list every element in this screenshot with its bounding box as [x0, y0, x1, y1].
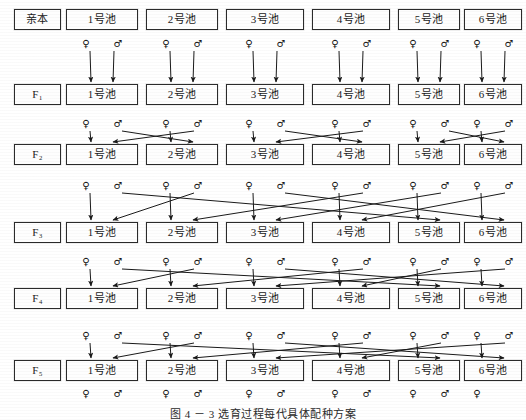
pond-box-f4-5: 5号池 [398, 288, 460, 309]
mating-arrow-female-6-to-6 [481, 193, 482, 220]
generation-label-f5: F₅ [14, 360, 61, 381]
pond-box-f1-4: 4号池 [312, 84, 390, 105]
generation-label-f1: F₁ [14, 84, 61, 105]
mating-arrow-male-1-to-1 [113, 51, 114, 82]
terminal-sex-symbol-9: ♀ [409, 389, 416, 399]
male-symbol-f3-from4: ♂ [363, 181, 372, 191]
mating-arrow-male-1-to-2 [122, 131, 193, 142]
pond-box-f2-1: 1号池 [66, 144, 138, 165]
mating-arrow-female-6-to-6 [481, 269, 482, 286]
female-symbol-f3-from4: ♀ [331, 181, 338, 191]
pond-box-parent-6: 6号池 [464, 9, 522, 30]
male-symbol-f2-from3: ♂ [277, 119, 286, 129]
male-symbol-f3-from6: ♂ [505, 181, 514, 191]
female-symbol-f4-from1: ♀ [82, 257, 89, 267]
figure-canvas: 亲本1号池2号池3号池4号池5号池6号池F₁1号池2号池3号池4号池5号池6号池… [0, 0, 526, 420]
pond-box-f5-1: 1号池 [66, 360, 138, 381]
mating-arrow-male-2-to-1 [113, 131, 194, 142]
mating-arrow-female-1-to-1 [90, 131, 91, 142]
female-symbol-f5-from2: ♀ [162, 331, 169, 341]
pond-box-f3-4: 4号池 [312, 222, 390, 243]
mating-arrow-male-4-to-3 [276, 131, 363, 142]
mating-arrow-female-3-to-3 [253, 51, 254, 82]
mating-arrow-male-6-to-6 [504, 51, 505, 82]
pond-box-f4-4: 4号池 [312, 288, 390, 309]
female-symbol-f4-from3: ♀ [245, 257, 252, 267]
terminal-sex-symbol-6: ♂ [277, 389, 286, 399]
female-symbol-f2-from3: ♀ [245, 119, 252, 129]
mating-arrow-female-2-to-2 [170, 193, 171, 220]
male-symbol-f4-from5: ♂ [441, 257, 450, 267]
mating-arrow-male-6-to-5 [440, 131, 505, 142]
pond-box-f1-2: 2号池 [146, 84, 218, 105]
pond-box-f2-5: 5号池 [398, 144, 460, 165]
pond-box-f4-2: 2号池 [146, 288, 218, 309]
female-symbol-f3-from3: ♀ [245, 181, 252, 191]
mating-arrow-female-3-to-3 [253, 193, 254, 220]
mating-arrow-male-5-to-6 [449, 131, 504, 142]
male-symbol-f1-from2: ♂ [194, 39, 203, 49]
male-symbol-f1-from4: ♂ [363, 39, 372, 49]
male-symbol-f5-from1: ♂ [114, 331, 123, 341]
female-symbol-f1-from6: ♀ [473, 39, 480, 49]
pond-box-f2-6: 6号池 [464, 144, 522, 165]
female-symbol-f1-from2: ♀ [162, 39, 169, 49]
pond-box-f3-6: 6号池 [464, 222, 522, 243]
male-symbol-f5-from5: ♂ [441, 331, 450, 341]
mating-arrow-female-4-to-4 [339, 51, 340, 82]
mating-arrow-male-5-to-4 [362, 269, 441, 286]
pond-box-parent-5: 5号池 [398, 9, 460, 30]
female-symbol-f4-from5: ♀ [409, 257, 416, 267]
female-symbol-f3-from1: ♀ [82, 181, 89, 191]
male-symbol-f1-from6: ♂ [505, 39, 514, 49]
male-symbol-f2-from6: ♂ [505, 119, 514, 129]
mating-arrow-male-3-to-4 [285, 131, 362, 142]
mating-arrow-male-4-to-4 [362, 51, 363, 82]
mating-arrow-female-2-to-2 [170, 131, 171, 142]
pond-box-f2-2: 2号池 [146, 144, 218, 165]
female-symbol-f5-from3: ♀ [245, 331, 252, 341]
male-symbol-f3-from5: ♂ [441, 181, 450, 191]
female-symbol-f2-from4: ♀ [331, 119, 338, 129]
terminal-sex-symbol-2: ♂ [114, 389, 123, 399]
female-symbol-f1-from5: ♀ [409, 39, 416, 49]
mating-arrow-female-1-to-1 [90, 51, 91, 82]
male-symbol-f2-from1: ♂ [114, 119, 123, 129]
generation-label-f2: F₂ [14, 144, 61, 165]
pond-box-f4-6: 6号池 [464, 288, 522, 309]
mating-arrow-male-4-to-2 [193, 193, 363, 220]
female-symbol-f2-from5: ♀ [409, 119, 416, 129]
generation-label-f4: F₄ [14, 288, 61, 309]
mating-arrow-female-3-to-3 [253, 343, 254, 358]
mating-arrow-female-3-to-3 [253, 269, 254, 286]
mating-arrow-female-5-to-5 [417, 51, 418, 82]
mating-arrow-female-5-to-5 [417, 269, 418, 286]
male-symbol-f5-from6: ♂ [505, 331, 514, 341]
female-symbol-f5-from1: ♀ [82, 331, 89, 341]
male-symbol-f4-from2: ♂ [194, 257, 203, 267]
male-symbol-f3-from2: ♂ [194, 181, 203, 191]
pond-box-f3-5: 5号池 [398, 222, 460, 243]
female-symbol-f2-from2: ♀ [162, 119, 169, 129]
mating-arrow-female-6-to-6 [481, 343, 482, 358]
terminal-sex-symbol-10: ♂ [441, 389, 450, 399]
female-symbol-f2-from6: ♀ [473, 119, 480, 129]
pond-box-f4-1: 1号池 [66, 288, 138, 309]
mating-arrow-female-4-to-4 [339, 193, 340, 220]
male-symbol-f4-from4: ♂ [363, 257, 372, 267]
male-symbol-f5-from4: ♂ [363, 331, 372, 341]
mating-arrow-female-2-to-2 [170, 343, 171, 358]
pond-box-parent-3: 3号池 [226, 9, 304, 30]
female-symbol-f4-from4: ♀ [331, 257, 338, 267]
generation-label-f3: F₃ [14, 222, 61, 243]
terminal-sex-symbol-7: ♀ [331, 389, 338, 399]
mating-arrow-male-1-to-5 [122, 343, 440, 358]
mating-arrow-male-1-to-5 [122, 269, 440, 286]
pond-box-parent-1: 1号池 [66, 9, 138, 30]
terminal-sex-symbol-5: ♀ [245, 389, 252, 399]
pond-box-f5-2: 2号池 [146, 360, 218, 381]
pond-box-f2-4: 4号池 [312, 144, 390, 165]
mating-arrow-female-4-to-4 [339, 269, 340, 286]
female-symbol-f1-from3: ♀ [245, 39, 252, 49]
pond-box-parent-2: 2号池 [146, 9, 218, 30]
